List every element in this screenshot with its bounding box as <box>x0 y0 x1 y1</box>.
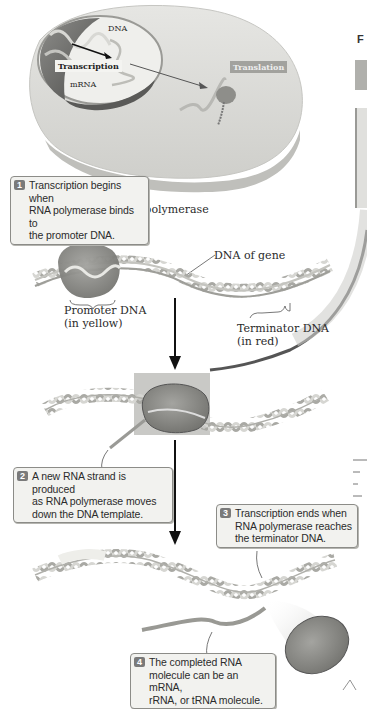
step-3-text-line3: the terminator DNA. <box>235 532 353 545</box>
step-4-callout: 4 The completed RNA molecule can be an m… <box>130 653 276 709</box>
step-4-text-line3: rRNA, or tRNA molecule. <box>149 694 271 707</box>
dna-label: DNA <box>108 24 127 33</box>
step-3-callout: 3 Transcription ends when RNA polymerase… <box>216 504 358 548</box>
step-2-text-line3: down the DNA template. <box>32 508 168 521</box>
step-3-text-line1: Transcription ends when <box>235 507 353 520</box>
step-2-text-line1: A new RNA strand is produced <box>32 470 168 495</box>
transcription-label: Transcription <box>55 60 122 72</box>
promoter-dna-label: Promoter DNA (in yellow) <box>64 304 146 330</box>
step-2-text-line2: as RNA polymerase moves <box>32 495 168 508</box>
adjacent-column-fragments <box>343 60 367 690</box>
step-1-callout: 1 Transcription begins when RNA polymera… <box>10 176 149 245</box>
step-4-text-line2: molecule can be an mRNA, <box>149 669 271 694</box>
step-4-text-line1: The completed RNA <box>149 656 271 669</box>
step-2-callout: 2 A new RNA strand is produced as RNA po… <box>13 467 173 523</box>
terminator-dna-label-line2: (in red) <box>237 335 329 348</box>
translation-label: Translation <box>230 61 287 73</box>
adjacent-figure-heading: F <box>357 33 364 45</box>
dna-helix-2 <box>45 373 325 448</box>
step-3-text-line2: RNA polymerase reaches <box>235 520 353 533</box>
promoter-dna-label-line1: Promoter DNA <box>64 304 146 317</box>
step-1-text-line3: the promoter DNA. <box>29 229 144 242</box>
step-3-number-badge: 3 <box>220 508 231 518</box>
terminator-dna-label: Terminator DNA (in red) <box>237 322 329 348</box>
terminator-dna-label-line1: Terminator DNA <box>237 322 329 335</box>
step-1-text-line1: Transcription begins when <box>29 179 144 204</box>
dna-of-gene-label: DNA of gene <box>214 249 285 262</box>
step-2-number-badge: 2 <box>17 471 28 481</box>
promoter-dna-label-line2: (in yellow) <box>64 317 146 330</box>
step-1-number-badge: 1 <box>14 180 25 190</box>
mrna-label: mRNA <box>70 80 96 89</box>
step-4-number-badge: 4 <box>134 657 145 667</box>
step-1-text-line2: RNA polymerase binds to <box>29 204 144 229</box>
